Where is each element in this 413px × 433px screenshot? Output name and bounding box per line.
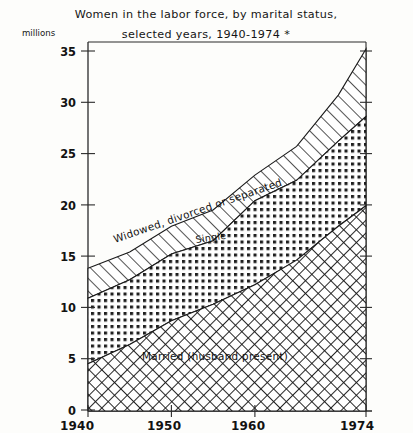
chart-container: 35 30 25 20 15 10 5 0 1940 1950 1960 197… bbox=[0, 0, 413, 433]
y-tick-labels: 35 30 25 20 15 10 5 0 bbox=[60, 45, 76, 418]
chart-subtitle: selected years, 1940-1974 * bbox=[122, 28, 290, 41]
y-tick-label: 0 bbox=[68, 404, 76, 418]
x-tick-labels: 1940 1950 1960 1974 bbox=[60, 419, 374, 433]
area-label-married: Married (husband present) bbox=[142, 350, 288, 362]
y-tick-label: 35 bbox=[60, 45, 76, 59]
x-tick-label: 1960 bbox=[231, 419, 265, 433]
y-tick-label: 30 bbox=[60, 96, 76, 110]
chart-title: Women in the labor force, by marital sta… bbox=[75, 8, 338, 21]
y-tick-label: 25 bbox=[60, 147, 76, 161]
x-tick-label: 1974 bbox=[340, 419, 374, 433]
labor-force-area-chart: 35 30 25 20 15 10 5 0 1940 1950 1960 197… bbox=[0, 0, 413, 433]
y-tick-label: 20 bbox=[60, 199, 76, 213]
y-tick-label: 10 bbox=[60, 301, 76, 315]
x-tick-label: 1950 bbox=[147, 419, 181, 433]
y-tick-label: 5 bbox=[68, 352, 76, 366]
y-axis-units-label: millions bbox=[22, 28, 56, 38]
y-tick-label: 15 bbox=[60, 250, 76, 264]
x-tick-label: 1940 bbox=[60, 419, 94, 433]
